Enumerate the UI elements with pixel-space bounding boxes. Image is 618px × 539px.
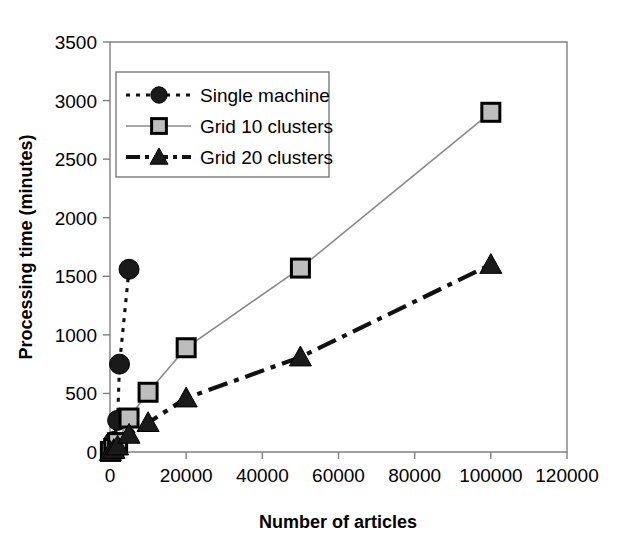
y-tick-label: 2500: [55, 149, 97, 170]
y-tick-label: 3500: [55, 32, 97, 53]
y-axis: 0500100015002000250030003500: [55, 32, 110, 463]
x-tick-label: 80000: [388, 465, 441, 486]
y-axis-title: Processing time (minutes): [16, 134, 36, 359]
data-point-triangle: [289, 346, 311, 366]
line-chart: 0500100015002000250030003500 02000040000…: [0, 0, 618, 539]
data-point-circle: [151, 87, 167, 103]
legend-item-grid-10-clusters[interactable]: Grid 10 clusters: [126, 116, 333, 137]
data-point-square: [291, 259, 309, 277]
legend-label: Grid 20 clusters: [200, 147, 333, 168]
chart-figure: 0500100015002000250030003500 02000040000…: [0, 0, 618, 539]
legend-label: Single machine: [200, 85, 330, 106]
y-tick-label: 1500: [55, 266, 97, 287]
y-tick-label: 2000: [55, 208, 97, 229]
data-point-circle: [119, 259, 139, 279]
x-tick-label: 20000: [160, 465, 213, 486]
y-tick-label: 1000: [55, 325, 97, 346]
x-axis-title: Number of articles: [259, 512, 417, 532]
y-tick-label: 500: [65, 383, 97, 404]
legend-label: Grid 10 clusters: [200, 116, 333, 137]
data-point-square: [482, 103, 500, 121]
data-point-square: [152, 119, 167, 134]
x-tick-label: 120000: [535, 465, 598, 486]
x-tick-label: 100000: [459, 465, 522, 486]
series-grid-20-clusters: [99, 254, 501, 461]
scanned-page-artifact: [180, 0, 618, 22]
data-point-square: [139, 383, 157, 401]
y-tick-label: 0: [86, 442, 97, 463]
y-tick-label: 3000: [55, 91, 97, 112]
x-tick-label: 0: [105, 465, 116, 486]
legend-item-single-machine[interactable]: Single machine: [126, 85, 330, 106]
chart-legend: Single machineGrid 10 clustersGrid 20 cl…: [116, 72, 333, 177]
data-point-circle: [110, 354, 130, 374]
x-tick-label: 40000: [236, 465, 289, 486]
data-point-triangle: [480, 254, 502, 274]
x-tick-label: 60000: [312, 465, 365, 486]
data-point-triangle: [137, 412, 159, 432]
x-axis: 020000400006000080000100000120000: [105, 452, 599, 486]
data-point-triangle: [175, 387, 197, 407]
data-point-square: [177, 339, 195, 357]
